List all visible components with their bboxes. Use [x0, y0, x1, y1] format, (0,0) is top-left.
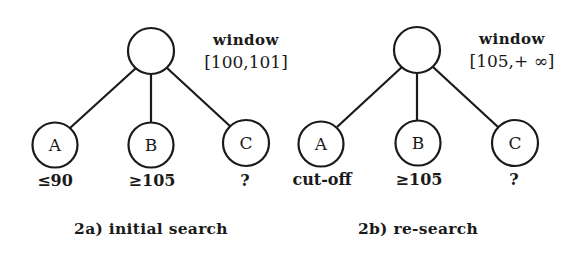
window-range: [100,101] — [204, 52, 288, 72]
node-c-value: ? — [240, 171, 249, 190]
edge-root-c — [167, 68, 231, 127]
search-tree-figure: A B C window [100,101] ≤90 ≥105 ? 2a) in… — [0, 0, 585, 259]
node-b-value: ≥105 — [396, 170, 443, 189]
node-b-label: B — [412, 133, 425, 153]
root-node — [128, 28, 174, 74]
edge-root-a — [70, 68, 136, 128]
node-c-label: C — [239, 133, 252, 153]
node-a-label: A — [48, 135, 62, 155]
edge-root-a — [337, 67, 402, 127]
node-a-value: cut-off — [292, 170, 352, 189]
node-c-value: ? — [509, 170, 518, 189]
figure-caption: 2b) re-search — [358, 219, 478, 238]
edge-root-c — [433, 67, 498, 127]
node-b-label: B — [145, 135, 158, 155]
window-label: window — [478, 30, 546, 48]
root-node — [394, 27, 440, 73]
tree-2a-initial-search: A B C window [100,101] ≤90 ≥105 ? 2a) in… — [33, 28, 288, 238]
node-c-label: C — [508, 133, 521, 153]
window-label: window — [212, 31, 280, 49]
node-a-label: A — [314, 134, 328, 154]
figure-caption: 2a) initial search — [74, 219, 228, 238]
node-b-value: ≥105 — [129, 171, 176, 190]
tree-2b-re-search: A B C window [105,+ ∞] cut-off ≥105 ? 2b… — [292, 27, 554, 238]
node-a-value: ≤90 — [37, 171, 73, 190]
window-range: [105,+ ∞] — [470, 51, 555, 71]
